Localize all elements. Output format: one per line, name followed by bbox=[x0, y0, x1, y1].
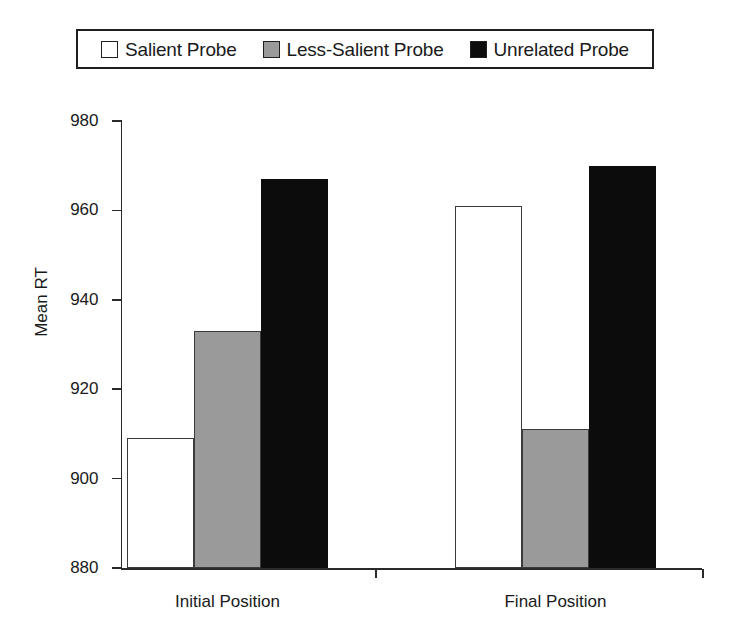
y-tick-mark bbox=[112, 567, 122, 569]
y-tick-label: 880 bbox=[49, 558, 99, 578]
bar-initial-position-less-salient-probe bbox=[194, 331, 261, 568]
x-tick-mark bbox=[375, 569, 377, 578]
bar-final-position-less-salient-probe bbox=[522, 429, 589, 568]
y-tick-mark bbox=[112, 299, 122, 301]
y-tick-label: 940 bbox=[49, 290, 99, 310]
bar-chart-figure: Salient Probe Less-Salient Probe Unrelat… bbox=[0, 0, 742, 630]
y-tick-label: 900 bbox=[49, 469, 99, 489]
y-tick-label: 980 bbox=[49, 111, 99, 131]
y-tick-mark bbox=[112, 210, 122, 212]
bar-initial-position-salient-probe bbox=[127, 438, 194, 568]
bar-final-position-salient-probe bbox=[455, 206, 522, 568]
y-axis-line bbox=[121, 121, 123, 568]
bar-final-position-unrelated-probe bbox=[589, 166, 656, 568]
x-axis-line bbox=[121, 568, 703, 570]
x-group-label-final-position: Final Position bbox=[446, 592, 666, 612]
plot-area: 980960940920900880 Initial PositionFinal… bbox=[0, 0, 742, 630]
y-tick-label: 960 bbox=[49, 200, 99, 220]
y-tick-label: 920 bbox=[49, 379, 99, 399]
y-tick-mark bbox=[112, 478, 122, 480]
x-tick-mark bbox=[702, 569, 704, 578]
x-group-label-initial-position: Initial Position bbox=[118, 592, 338, 612]
y-tick-mark bbox=[112, 120, 122, 122]
bar-initial-position-unrelated-probe bbox=[261, 179, 328, 568]
y-tick-mark bbox=[112, 388, 122, 390]
